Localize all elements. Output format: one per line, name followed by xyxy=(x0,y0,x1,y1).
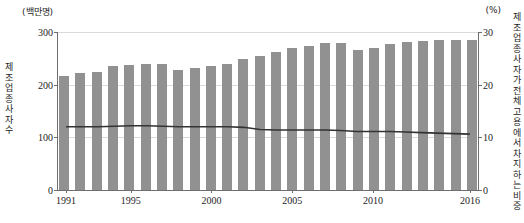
bar-1999 xyxy=(190,68,200,190)
x-axis-tick-mark xyxy=(292,190,293,193)
bar-2005 xyxy=(287,48,297,190)
y-axis-right-tick-mark xyxy=(478,85,482,86)
y-axis-left-tick-label: 0 xyxy=(48,185,53,196)
bar-2004 xyxy=(271,52,281,190)
x-axis-tick-mark xyxy=(470,190,471,193)
y-axis-left-tick-label: 300 xyxy=(38,27,53,38)
x-axis-tick-label-2016: 2016 xyxy=(460,195,480,206)
x-axis-tick-mark xyxy=(373,190,374,193)
manufacturing-employment-chart: 제 조 업 종 사 자 수 제 조 업 종 사 자 가 전 체 고 용 에 서 … xyxy=(0,0,524,223)
plot-area: 0100200300 0102030 199119952000200520102… xyxy=(57,32,479,191)
y-axis-right-tick-label: 20 xyxy=(483,79,493,90)
y-axis-left-tick-label: 100 xyxy=(38,132,53,143)
y-axis-right-tick-mark xyxy=(478,190,482,191)
bar-1998 xyxy=(173,70,183,190)
bar-2009 xyxy=(353,50,363,190)
bar-2015 xyxy=(451,40,461,190)
bar-2016 xyxy=(467,40,477,190)
y-axis-right-title: 제 조 업 종 사 자 가 전 체 고 용 에 서 차 지 하 는 비 중 xyxy=(510,12,523,212)
x-axis-tick-mark xyxy=(211,190,212,193)
bar-2002 xyxy=(238,59,248,190)
y-axis-left-title: 제 조 업 종 사 자 수 xyxy=(2,62,15,136)
bar-2014 xyxy=(434,40,444,190)
bar-series xyxy=(58,32,478,190)
bar-2013 xyxy=(418,41,428,190)
bar-1994 xyxy=(108,66,118,190)
bar-2001 xyxy=(222,64,232,190)
bar-1995 xyxy=(124,65,134,190)
bar-2000 xyxy=(206,66,216,190)
bar-1992 xyxy=(75,73,85,190)
y-axis-right-tick-mark xyxy=(478,32,482,33)
bar-1997 xyxy=(157,64,167,190)
bar-2003 xyxy=(255,56,265,190)
bar-2011 xyxy=(385,44,395,190)
x-axis-tick-mark xyxy=(131,190,132,193)
bar-1991 xyxy=(59,76,69,190)
x-axis-tick-label-2010: 2010 xyxy=(363,195,383,206)
x-axis-tick-label-2005: 2005 xyxy=(282,195,302,206)
bar-1993 xyxy=(92,72,102,190)
x-axis-tick-label-2000: 2000 xyxy=(201,195,221,206)
bar-1996 xyxy=(141,64,151,190)
y-axis-left-tick-label: 200 xyxy=(38,79,53,90)
bar-2010 xyxy=(369,48,379,190)
y-axis-right-tick-label: 10 xyxy=(483,132,493,143)
x-axis-tick-label-1995: 1995 xyxy=(121,195,141,206)
bar-2008 xyxy=(336,43,346,190)
bar-2012 xyxy=(402,42,412,190)
y-axis-right-unit: (%) xyxy=(485,5,501,15)
y-axis-left-tick-mark xyxy=(54,190,58,191)
y-axis-right-tick-label: 0 xyxy=(483,185,488,196)
bar-2006 xyxy=(304,46,314,190)
x-axis-tick-label-1991: 1991 xyxy=(56,195,76,206)
y-axis-right-tick-label: 30 xyxy=(483,27,493,38)
y-axis-left-unit: (백만명) xyxy=(22,5,53,18)
y-axis-right-tick-mark xyxy=(478,137,482,138)
x-axis-tick-mark xyxy=(66,190,67,193)
bar-2007 xyxy=(320,43,330,190)
